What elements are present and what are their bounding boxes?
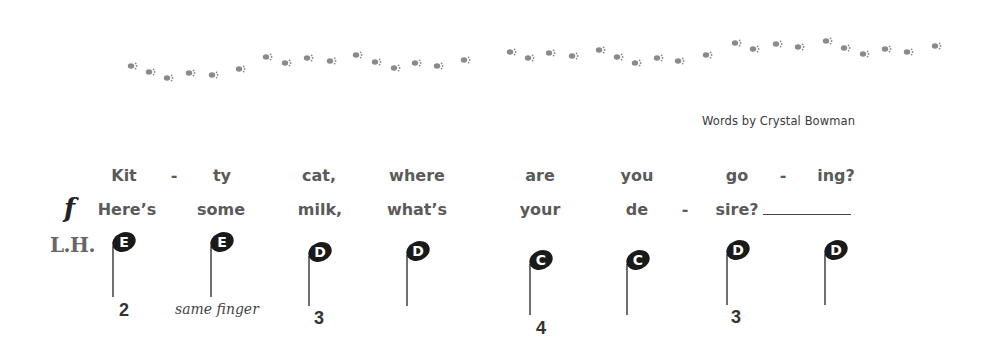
note-letter: D — [314, 244, 326, 260]
note-letter: C — [633, 252, 643, 268]
note-e: E — [207, 229, 236, 297]
finger-number: 2 — [119, 300, 129, 321]
finger-number: 3 — [731, 307, 741, 328]
note-letter: D — [412, 243, 424, 259]
note-d: D — [723, 237, 752, 305]
finger-number: 4 — [536, 318, 546, 339]
note-letter: D — [830, 242, 842, 258]
note-staff: EEDDCCDD — [0, 0, 981, 345]
note-d: D — [305, 239, 334, 306]
note-letter: C — [536, 252, 546, 268]
note-letter: D — [732, 242, 744, 258]
same-finger-hint: same finger — [175, 301, 259, 317]
note-c: C — [526, 247, 555, 315]
note-d: D — [821, 237, 850, 305]
note-letter: E — [217, 234, 227, 250]
note-d: D — [403, 238, 432, 306]
note-e: E — [109, 229, 138, 297]
note-letter: E — [119, 234, 129, 250]
finger-number: 3 — [314, 308, 324, 329]
note-c: C — [623, 247, 652, 315]
